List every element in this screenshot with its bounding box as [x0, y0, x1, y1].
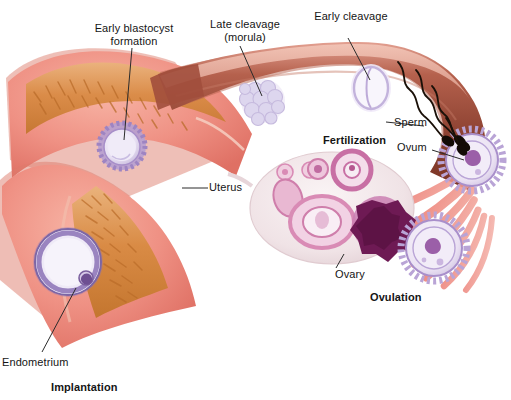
label-late-cleavage: Late cleavage (morula)	[210, 18, 280, 43]
label-ovulation: Ovulation	[370, 291, 422, 304]
label-uterus: Uterus	[209, 181, 242, 194]
follicle-antral	[333, 151, 371, 189]
blastocyst-implanting	[33, 227, 103, 297]
label-implantation: Implantation	[51, 381, 118, 394]
label-ovary: Ovary	[335, 268, 365, 281]
zygote-early-cleavage	[351, 64, 391, 112]
follicle-primary	[308, 159, 328, 179]
follicle-mature-graafian	[290, 196, 354, 248]
label-sperm: Sperm	[394, 116, 427, 129]
morula	[240, 79, 286, 126]
label-early-blastocyst: Early blastocyst formation	[95, 22, 174, 47]
label-early-cleavage: Early cleavage	[314, 10, 388, 23]
anatomy-artwork	[0, 0, 511, 400]
blastocyst-early	[98, 122, 146, 170]
label-endometrium: Endometrium	[2, 356, 69, 369]
ovary	[228, 151, 416, 264]
label-fertilization: Fertilization	[323, 134, 386, 147]
inner-cell-mass	[79, 271, 93, 285]
label-ovum: Ovum	[397, 141, 427, 154]
illustration-figure: Early blastocyst formation Late cleavage…	[0, 0, 511, 400]
